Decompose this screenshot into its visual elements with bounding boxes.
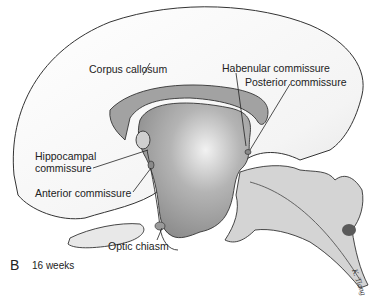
label-hippocampal-commissure-line1: Hippocampal xyxy=(35,150,96,162)
label-hippocampal-commissure-line2: commissure xyxy=(35,162,92,174)
hippocampal-commissure xyxy=(136,131,150,149)
posterior-commissure xyxy=(245,150,251,155)
label-anterior-commissure: Anterior commissure xyxy=(35,187,131,199)
label-posterior-commissure: Posterior commissure xyxy=(245,76,347,88)
label-habenular-commissure: Habenular commissure xyxy=(222,62,330,74)
label-corpus-callosum: Corpus callosum xyxy=(89,63,167,75)
third-ventricle xyxy=(138,103,250,238)
brain-sagittal-diagram: K. Tiang Corpus callosum Habenular commi… xyxy=(0,0,378,300)
figure-caption: 16 weeks xyxy=(32,260,74,271)
nucleus-spot xyxy=(342,224,356,236)
panel-letter: B xyxy=(10,257,19,273)
optic-chiasm xyxy=(155,222,165,230)
anterior-commissure xyxy=(148,161,154,169)
label-optic-chiasm: Optic chiasm xyxy=(108,240,169,252)
